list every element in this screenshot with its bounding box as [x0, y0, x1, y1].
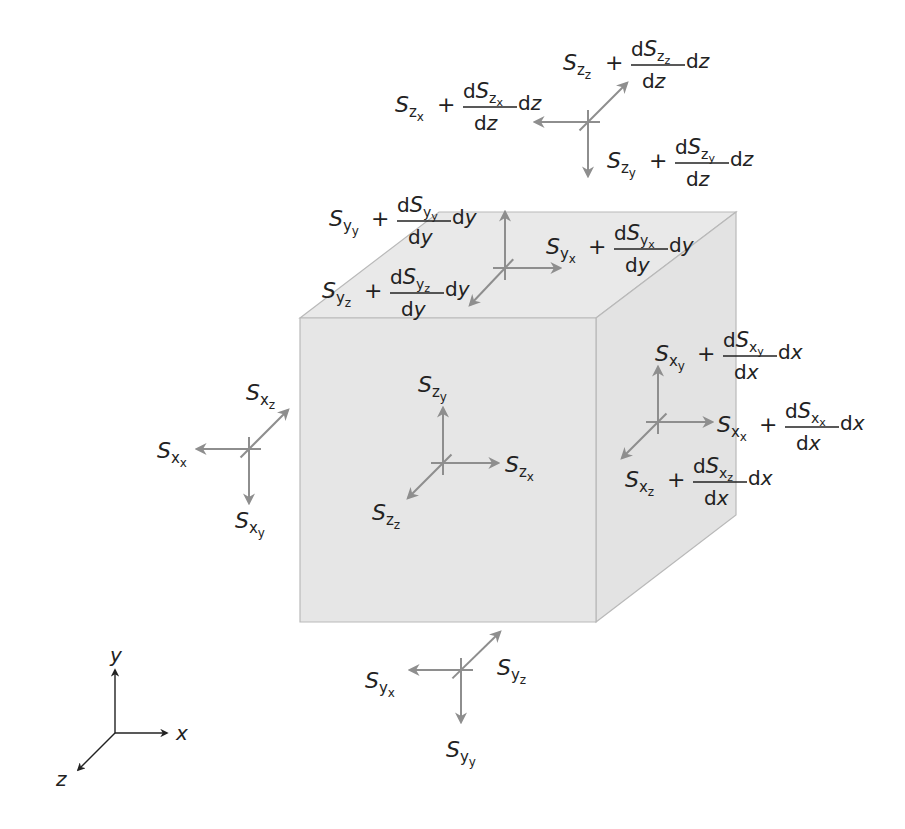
stress-arrow-icon	[241, 410, 288, 457]
svg-text:dy: dy	[445, 277, 471, 301]
label-Sxx-plus-dSxx: Sxx+dSxxdxdx	[717, 399, 865, 455]
svg-text:Sxx: Sxx	[157, 438, 187, 470]
svg-text:dz: dz	[642, 69, 666, 93]
svg-text:Szy: Szy	[607, 148, 636, 180]
svg-text:dx: dx	[840, 411, 865, 435]
svg-text:dy: dy	[401, 297, 427, 321]
svg-text:dz: dz	[686, 49, 710, 73]
svg-text:Syy: Syy	[446, 737, 476, 769]
svg-text:dy: dy	[452, 205, 478, 229]
svg-text:dSzx: dSzx	[463, 79, 503, 109]
svg-text:dSzz: dSzz	[631, 37, 670, 67]
label-Sxx-left: Sxx	[157, 438, 187, 470]
cube	[300, 212, 736, 622]
label-Szx-plus-dSzx: Szx+dSzxdzdz	[395, 79, 542, 135]
coordinate-axes: x y z	[55, 643, 188, 791]
svg-text:+: +	[588, 234, 606, 259]
label-Syx-bottom: Syx	[365, 668, 395, 700]
label-Syz-bottom: Syz	[497, 655, 526, 687]
svg-text:+: +	[697, 341, 715, 366]
x-axis-label: x	[175, 721, 188, 745]
svg-text:dSyy: dSyy	[397, 193, 438, 223]
svg-text:dz: dz	[518, 91, 542, 115]
svg-text:dx: dx	[748, 466, 773, 490]
svg-text:dy: dy	[408, 225, 434, 249]
svg-text:+: +	[649, 148, 667, 173]
svg-text:dz: dz	[730, 147, 754, 171]
svg-text:Syy: Syy	[329, 206, 359, 238]
stress-cube-diagram: SzySzxSzzSxzSxxSxySyzSyxSyy Szz+dSzzdzdz…	[0, 0, 905, 829]
svg-text:dz: dz	[474, 111, 498, 135]
label-Syy-bottom: Syy	[446, 737, 476, 769]
stress-arrow-icon	[580, 83, 627, 130]
label-Szy-plus-dSzy: Szy+dSzydzdz	[607, 135, 754, 191]
z-axis-label: z	[55, 767, 67, 791]
svg-text:Syz: Syz	[497, 655, 526, 687]
svg-text:dx: dx	[796, 431, 821, 455]
label-Sxz-left: Sxz	[246, 380, 275, 412]
x-left-group	[197, 410, 288, 503]
y-bottom-group	[410, 632, 500, 722]
stress-arrow-icon	[452, 632, 500, 678]
svg-text:+: +	[437, 92, 455, 117]
svg-text:Szz: Szz	[563, 50, 591, 82]
svg-text:+: +	[667, 467, 685, 492]
svg-text:+: +	[371, 206, 389, 231]
y-axis-label: y	[109, 643, 123, 667]
svg-text:Sxy: Sxy	[235, 508, 265, 540]
svg-text:Syx: Syx	[365, 668, 395, 700]
svg-text:dy: dy	[669, 233, 695, 257]
svg-text:dSxx: dSxx	[785, 399, 826, 429]
svg-text:+: +	[759, 412, 777, 437]
svg-text:dx: dx	[778, 340, 803, 364]
svg-text:Sxz: Sxz	[246, 380, 275, 412]
z-axis-arrow-icon	[78, 733, 115, 770]
label-Szz-plus-dSzz: Szz+dSzzdzdz	[563, 37, 710, 93]
label-Sxy-left: Sxy	[235, 508, 265, 540]
svg-text:dy: dy	[625, 253, 651, 277]
svg-text:+: +	[605, 50, 623, 75]
svg-text:dSzy: dSzy	[675, 135, 715, 165]
svg-text:Szx: Szx	[395, 92, 424, 124]
svg-text:+: +	[364, 278, 382, 303]
svg-text:dx: dx	[734, 360, 759, 384]
cube-front-face	[300, 318, 596, 622]
svg-text:dz: dz	[686, 167, 710, 191]
svg-text:dx: dx	[704, 486, 729, 510]
